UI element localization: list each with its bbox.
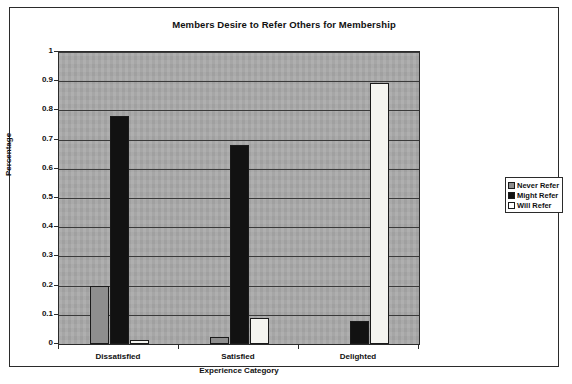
bar-dissatisfied-might-refer	[110, 116, 129, 344]
y-tick-label: 0.3	[31, 250, 53, 259]
legend-item-will-refer[interactable]: Will Refer	[508, 200, 559, 210]
y-tick-mark	[54, 139, 58, 140]
y-tick-mark	[54, 109, 58, 110]
bar-delighted-will-refer	[370, 83, 389, 344]
y-tick-mark	[54, 168, 58, 169]
gridline	[59, 81, 419, 82]
bar-satisfied-will-refer	[250, 318, 269, 344]
gridline	[59, 52, 419, 53]
bar-satisfied-never-refer	[210, 337, 229, 344]
y-tick-label: 0.8	[31, 104, 53, 113]
x-category-label-dissatisfied: Dissatisfied	[68, 352, 168, 361]
y-tick-mark	[54, 197, 58, 198]
x-tick-mark	[58, 344, 59, 349]
x-category-label-delighted: Delighted	[308, 352, 408, 361]
legend-swatch-icon	[508, 192, 515, 199]
legend-swatch-icon	[508, 202, 515, 209]
y-tick-label: 0	[31, 338, 53, 347]
y-axis-title: Percentage	[4, 133, 13, 176]
chart-legend: Never ReferMight ReferWill Refer	[505, 177, 563, 213]
screenshot-page: Members Desire to Refer Others for Membe…	[0, 0, 572, 384]
bar-satisfied-might-refer	[230, 145, 249, 344]
gridline	[59, 110, 419, 111]
legend-item-might-refer[interactable]: Might Refer	[508, 190, 559, 200]
chart-frame: Members Desire to Refer Others for Membe…	[9, 7, 559, 367]
legend-label: Never Refer	[517, 181, 559, 190]
y-tick-mark	[54, 51, 58, 52]
plot-area	[58, 51, 420, 345]
bar-dissatisfied-never-refer	[90, 286, 109, 344]
legend-item-never-refer[interactable]: Never Refer	[508, 180, 559, 190]
chart-title: Members Desire to Refer Others for Membe…	[10, 19, 558, 30]
y-tick-label: 0.6	[31, 163, 53, 172]
y-tick-mark	[54, 80, 58, 81]
y-tick-mark	[54, 255, 58, 256]
x-tick-mark	[418, 344, 419, 349]
y-tick-mark	[54, 285, 58, 286]
y-tick-label: 0.7	[31, 134, 53, 143]
x-axis-title: Experience Category	[58, 366, 420, 375]
bar-dissatisfied-will-refer	[130, 340, 149, 344]
y-tick-label: 0.4	[31, 221, 53, 230]
y-tick-label: 0.1	[31, 309, 53, 318]
x-category-label-satisfied: Satisfied	[188, 352, 288, 361]
y-tick-label: 0.5	[31, 192, 53, 201]
x-tick-mark	[298, 344, 299, 349]
legend-label: Might Refer	[517, 191, 558, 200]
bar-delighted-might-refer	[350, 321, 369, 344]
y-tick-mark	[54, 314, 58, 315]
y-tick-label: 0.2	[31, 280, 53, 289]
x-tick-mark	[178, 344, 179, 349]
y-tick-label: 1	[31, 46, 53, 55]
legend-label: Will Refer	[517, 201, 552, 210]
y-tick-mark	[54, 226, 58, 227]
legend-swatch-icon	[508, 182, 515, 189]
y-tick-label: 0.9	[31, 75, 53, 84]
